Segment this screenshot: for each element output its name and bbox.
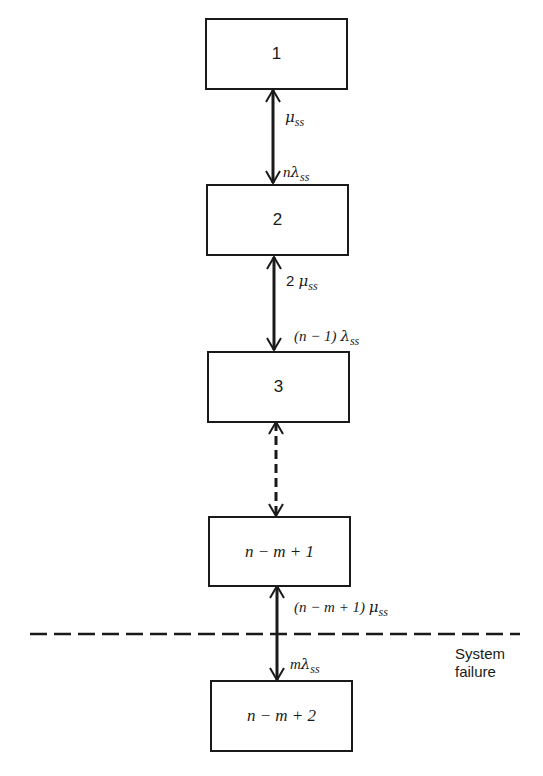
state-label: 1: [272, 44, 281, 64]
state-label: n − m + 2: [247, 706, 316, 726]
state-n-m-plus-2: n − m + 2: [210, 680, 353, 752]
state-3: 3: [207, 351, 350, 423]
rate-label-n-minus-1-lambda: (n − 1) λss: [294, 327, 359, 345]
rate-label-2-mu: 2 μss: [286, 272, 318, 290]
rate-label-n-lambda: nλss: [283, 163, 309, 181]
rate-label-m-lambda: mλss: [290, 655, 320, 673]
state-2: 2: [206, 184, 349, 256]
state-label: 2: [273, 210, 282, 230]
state-1: 1: [205, 18, 348, 90]
system-failure-label: System failure: [455, 645, 505, 681]
rate-label-mu: μss: [285, 108, 304, 126]
state-label: 3: [274, 377, 283, 397]
system-failure-line2: failure: [455, 663, 505, 681]
transition-2-3-arrow: [267, 257, 281, 350]
rate-label-n-m-1-mu: (n − m + 1) μss: [294, 598, 388, 616]
state-n-m-plus-1: n − m + 1: [208, 516, 351, 587]
state-label: n − m + 1: [245, 542, 314, 562]
transition-1-2-arrow: [266, 90, 280, 183]
transition-3-nm1-dashed-arrow: [269, 422, 283, 516]
system-failure-line1: System: [455, 645, 505, 663]
